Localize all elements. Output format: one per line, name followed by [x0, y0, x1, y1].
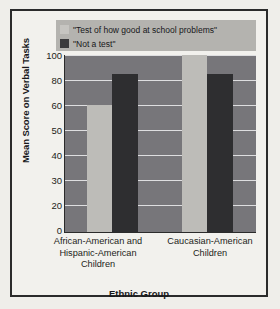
chart-legend: "Test of how good at school problems" "N…	[56, 20, 256, 51]
x-category-0-line-1: Hispanic-American	[42, 248, 154, 260]
legend-swatch-light-icon	[60, 25, 69, 34]
plot-area	[65, 55, 256, 232]
y-tick-label: 80	[32, 76, 62, 85]
bar-group0-series0	[87, 105, 112, 232]
chart-figure: "Test of how good at school problems" "N…	[10, 9, 268, 297]
x-category-0: African-American and Hispanic-American C…	[42, 236, 154, 271]
x-axis-line	[64, 232, 256, 233]
x-axis-title: Ethnic Group	[12, 288, 266, 299]
x-category-0-line-0: African-American and	[42, 236, 154, 248]
bar-group0-series1	[112, 74, 138, 232]
y-tick-label: 20	[32, 201, 62, 210]
gridline	[65, 55, 256, 56]
bar-group1-series1	[207, 74, 233, 232]
legend-swatch-dark-icon	[60, 39, 69, 48]
legend-label-0: "Test of how good at school problems"	[73, 25, 217, 35]
y-tick-label: 40	[32, 151, 62, 160]
y-tick-label: 0	[32, 226, 62, 235]
y-axis-ticks: 100 80 60 50 40 30 20 0	[28, 55, 62, 232]
x-category-1-line-1: Children	[154, 248, 266, 260]
bar-group1-series0	[182, 55, 207, 232]
legend-item-1: "Not a test"	[60, 37, 256, 50]
x-axis-categories: African-American and Hispanic-American C…	[42, 236, 266, 271]
legend-label-1: "Not a test"	[73, 39, 115, 49]
y-tick-label: 50	[32, 126, 62, 135]
x-category-1-line-0: Caucasian-American	[154, 236, 266, 248]
x-category-0-line-2: Children	[42, 259, 154, 271]
y-tick-label: 100	[32, 51, 62, 60]
legend-item-0: "Test of how good at school problems"	[60, 23, 256, 36]
y-tick-label: 60	[32, 101, 62, 110]
x-category-1: Caucasian-American Children	[154, 236, 266, 271]
y-tick-label: 30	[32, 176, 62, 185]
